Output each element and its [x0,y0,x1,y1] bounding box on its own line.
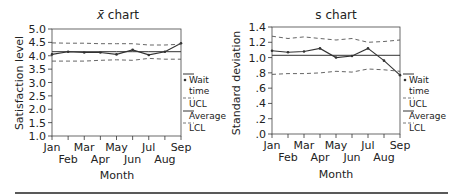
y-axis-label: Standard deviation [230,31,243,136]
data-point [335,56,338,59]
s-chart: s chart Standard deviation Month .0.2.4.… [230,8,410,181]
control-charts-figure: x̄ chart Satisfaction level Month 1.01.5… [0,0,453,196]
y-tick-label: 1.5 [29,117,47,130]
y-tick-label: 2.5 [29,90,47,103]
x-tick-label: Sep [390,139,411,152]
data-point [383,59,386,62]
y-tick-label: .8 [256,67,267,80]
legend-average: Average [189,111,226,121]
series-lcl [52,58,181,61]
data-point [367,47,370,50]
data-point [147,54,150,57]
legend-lcl: LCL [409,123,425,133]
data-point [115,53,118,56]
series-ucl [272,36,400,42]
plot-frame [52,29,181,136]
data-point [399,74,402,77]
y-tick-label: 1.0 [249,52,267,65]
s-chart-title: s chart [315,8,357,22]
x-tick-label: Apr [91,153,111,166]
svg-text:time: time [409,86,430,96]
legend-wait-time: Wait [409,75,429,85]
y-tick-label: 4.5 [29,36,47,49]
x-tick-label: Aug [154,153,175,166]
x-tick-label: Jun [342,151,360,164]
y-tick-label: 1.4 [249,21,267,34]
data-point [287,51,290,54]
legend-average: Average [409,111,446,121]
legend-lcl: LCL [189,123,205,133]
y-tick-label: 5.0 [29,23,47,36]
y-tick-label: .4 [256,97,267,110]
data-point [271,49,274,52]
svg-text:time: time [189,86,210,96]
y-tick-label: 2.0 [29,103,47,116]
data-point [303,50,306,53]
x-tick-label: Sep [171,141,192,154]
series-lcl [272,69,400,74]
y-tick-label: 3.5 [29,63,47,76]
y-tick-label: .6 [256,82,267,95]
y-tick-label: .2 [256,113,267,126]
y-tick-label: 1.2 [249,36,267,49]
x-tick-label: Aug [373,151,394,164]
x-bar-chart: x̄ chart Satisfaction level Month 1.01.5… [13,8,191,182]
data-point [319,47,322,50]
legend-ucl: UCL [409,99,427,109]
x-tick-label: Feb [278,151,297,164]
data-point [51,53,54,56]
data-point [131,49,134,52]
x-tick-label: Jun [123,153,141,166]
x-tick-label: Feb [58,153,77,166]
y-axis-label: Satisfaction level [13,36,26,130]
y-tick-label: 3.0 [29,77,47,90]
legend-ucl: UCL [189,99,207,109]
series-ucl [52,43,181,45]
x-axis-label: Month [319,168,354,181]
y-tick-label: 4.0 [29,50,47,63]
x-bar-chart-title: x̄ chart [96,8,139,22]
legend-wait-time: Wait [189,75,209,85]
legend-right: WaittimeUCLAverageLCL [403,74,446,133]
plot-frame [272,27,400,134]
x-axis-label: Month [100,169,135,182]
legend-left: WaittimeUCLAverageLCL [183,74,226,133]
x-tick-label: Apr [310,151,330,164]
